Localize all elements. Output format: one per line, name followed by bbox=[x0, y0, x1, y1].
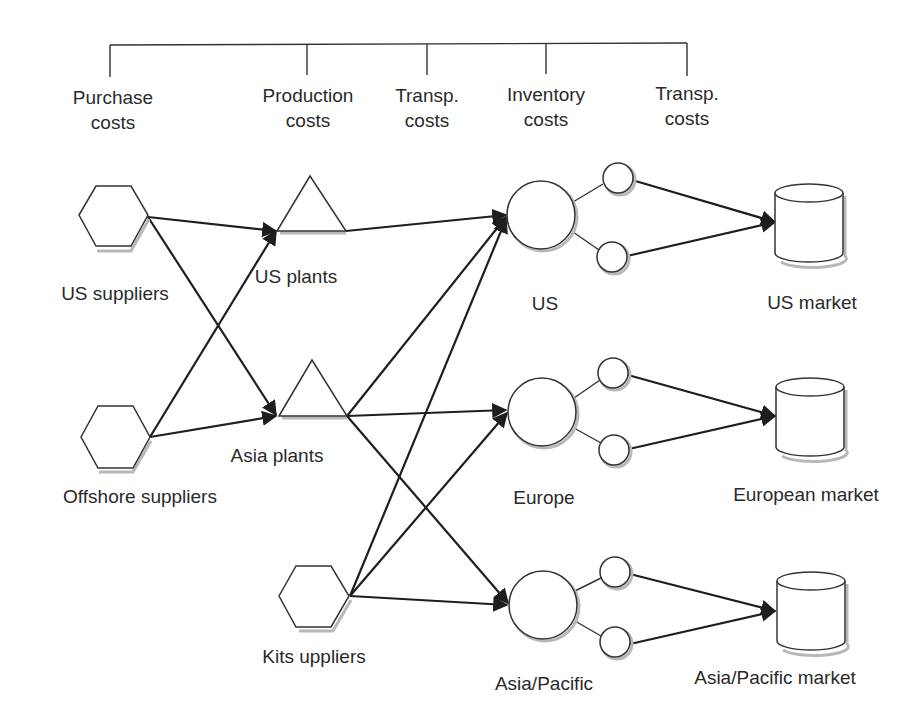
cost-label-line: costs bbox=[507, 107, 585, 132]
us-market-cylinder-icon[interactable] bbox=[775, 184, 846, 268]
cost-label-line: Transp. bbox=[655, 81, 719, 106]
offshore-suppliers-label: Offshore suppliers bbox=[63, 485, 217, 508]
market-nodes bbox=[775, 184, 848, 656]
cost-label-line: Inventory bbox=[507, 82, 585, 107]
kit-suppliers-hexagon-icon[interactable] bbox=[279, 566, 351, 631]
dc-asia-pacific-label: Asia/Pacific bbox=[495, 672, 593, 695]
kit-suppliers-label: Kits uppliers bbox=[262, 645, 366, 668]
dc-us-circle-icon[interactable] bbox=[507, 163, 635, 274]
cost-label-line: costs bbox=[263, 108, 354, 133]
cost-label-transport-1: Transp. costs bbox=[395, 83, 459, 133]
flow-edges bbox=[148, 180, 775, 644]
cost-label-inventory: Inventory costs bbox=[507, 82, 585, 132]
dc-us-label: US bbox=[532, 292, 558, 315]
cost-label-transport-2: Transp. costs bbox=[655, 81, 719, 131]
cost-label-line: Purchase bbox=[73, 85, 153, 110]
dc-asia-pacific-circle-icon[interactable] bbox=[509, 557, 632, 659]
us-suppliers-label: US suppliers bbox=[61, 282, 169, 305]
asia-pacific-market-cylinder-icon[interactable] bbox=[777, 572, 848, 656]
cost-label-purchase: Purchase costs bbox=[73, 85, 153, 135]
cost-label-production: Production costs bbox=[263, 83, 354, 133]
asia-pacific-market-label: Asia/Pacific market bbox=[694, 666, 856, 689]
cost-label-line: costs bbox=[73, 110, 153, 135]
asia-plants-label: Asia plants bbox=[231, 444, 324, 467]
cost-label-line: Transp. bbox=[395, 83, 459, 108]
asia-plants-triangle-icon[interactable] bbox=[279, 360, 347, 418]
plant-nodes bbox=[277, 176, 347, 418]
european-market-label: European market bbox=[733, 483, 879, 506]
us-market-label: US market bbox=[767, 291, 857, 314]
cost-label-line: costs bbox=[655, 106, 719, 131]
cost-bracket bbox=[110, 43, 687, 77]
cost-label-line: Production bbox=[263, 83, 354, 108]
us-plants-triangle-icon[interactable] bbox=[277, 176, 346, 233]
cost-label-line: costs bbox=[395, 108, 459, 133]
dc-europe-circle-icon[interactable] bbox=[508, 358, 631, 467]
us-plants-label: US plants bbox=[255, 265, 337, 288]
dc-europe-label: Europe bbox=[513, 486, 574, 509]
european-market-cylinder-icon[interactable] bbox=[776, 378, 847, 462]
us-suppliers-hexagon-icon[interactable] bbox=[79, 186, 149, 251]
dc-nodes bbox=[507, 163, 635, 659]
offshore-suppliers-hexagon-icon[interactable] bbox=[81, 406, 151, 472]
